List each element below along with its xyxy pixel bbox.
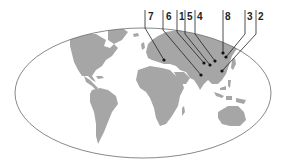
world-map: 7 6 1 5 4 8 3 2 xyxy=(0,0,284,166)
marker-6-label: 6 xyxy=(166,11,172,22)
marker-5-dot xyxy=(208,63,211,66)
philippines xyxy=(228,80,231,88)
caribbean xyxy=(96,76,104,79)
madagascar xyxy=(182,106,185,116)
marker-5-label: 5 xyxy=(187,11,193,22)
marker-2-label: 2 xyxy=(258,11,264,22)
marker-1-dot xyxy=(202,61,205,64)
marker-3-dot xyxy=(224,55,227,58)
australia xyxy=(218,106,246,126)
marker-3-label: 3 xyxy=(247,11,253,22)
marker-7-label: 7 xyxy=(148,11,154,22)
greenland xyxy=(108,28,128,44)
marker-8-dot xyxy=(221,51,224,54)
iceland xyxy=(133,33,139,37)
south-america xyxy=(90,88,118,144)
new-guinea xyxy=(236,98,246,104)
marker-6-dot xyxy=(199,73,202,76)
marker-1-label: 1 xyxy=(179,11,185,22)
marker-labels: 7 6 1 5 4 8 3 2 xyxy=(148,11,264,22)
marker-4-dot xyxy=(213,59,216,62)
marker-8-label: 8 xyxy=(225,11,231,22)
british-isles xyxy=(141,42,145,50)
landmasses xyxy=(70,28,253,144)
marker-2-dot xyxy=(220,69,223,72)
indonesia xyxy=(214,86,232,100)
marker-4-label: 4 xyxy=(197,11,203,22)
marker-7-dot xyxy=(162,58,165,61)
